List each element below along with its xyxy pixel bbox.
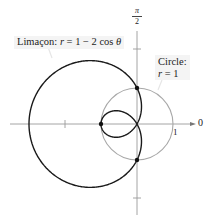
polar-graph — [0, 0, 214, 223]
limacon-label-prefix: Limaçon: — [17, 36, 60, 47]
pi-over-2-label: π2 — [132, 7, 142, 26]
polar-axis-arrow-icon — [190, 122, 196, 126]
intersection-point-top — [135, 86, 139, 90]
circle-label-title: Circle: — [158, 56, 187, 68]
limacon-label: Limaçon: r = 1 − 2 cos θ — [14, 36, 124, 49]
limacon-leader-line — [48, 47, 52, 58]
limacon-label-eq: = 1 − 2 cos — [64, 36, 116, 47]
polar-axis-zero-label: 0 — [198, 118, 203, 128]
intersection-point-bottom — [135, 158, 139, 162]
tick-label-one: 1 — [173, 128, 178, 137]
limacon-label-theta: θ — [116, 36, 121, 47]
circle-label: Circle:r = 1 — [155, 55, 190, 80]
circle-label-eq: = 1 — [162, 68, 178, 79]
pi-over-2-numerator: π — [132, 7, 142, 17]
circle-leader-line — [158, 80, 162, 90]
inner-loop-point — [99, 122, 103, 126]
pi-over-2-denominator: 2 — [132, 17, 142, 26]
